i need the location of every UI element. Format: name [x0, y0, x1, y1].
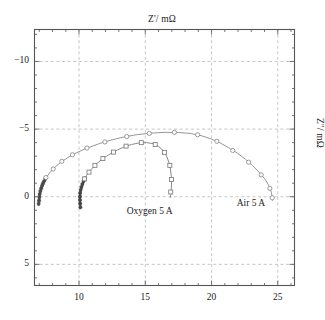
x-tick-label: 25: [265, 292, 291, 302]
data-point-marker: [60, 159, 64, 163]
data-point-marker: [101, 157, 105, 161]
data-point-marker: [169, 190, 173, 194]
data-point-marker: [196, 133, 200, 137]
data-point-marker: [247, 160, 251, 164]
data-point-marker: [85, 146, 89, 150]
data-point-marker: [103, 140, 107, 144]
axis-frame: [34, 29, 295, 286]
data-point-marker: [93, 163, 97, 167]
y-tick-label: 5: [3, 258, 29, 268]
x-tick-label: 15: [132, 292, 158, 302]
data-point-marker: [70, 153, 74, 157]
data-point-marker: [83, 177, 87, 181]
data-point-marker: [125, 134, 129, 138]
data-point-marker: [124, 144, 128, 148]
x-tick-label: 20: [199, 292, 225, 302]
y-tick-label: 0: [3, 191, 29, 201]
data-point-marker: [170, 177, 174, 181]
data-point-marker: [268, 186, 272, 190]
data-point-marker: [51, 167, 55, 171]
series-oxygen: [78, 141, 174, 210]
series-label-air: Air 5 A: [237, 198, 266, 208]
series-air: [37, 130, 275, 206]
y-tick-label: −10: [3, 55, 29, 65]
data-point-marker: [215, 139, 219, 143]
data-point-marker: [147, 131, 151, 135]
series-line: [80, 143, 172, 208]
x-tick-label: 10: [66, 292, 92, 302]
y-tick-label: −5: [3, 123, 29, 133]
data-point-marker: [270, 196, 274, 200]
plot-border: [35, 30, 295, 286]
data-point-marker: [168, 163, 172, 167]
data-point-marker: [172, 130, 176, 134]
data-point-marker: [153, 143, 157, 147]
data-point-marker: [231, 148, 235, 152]
data-point-marker: [163, 150, 167, 154]
gridlines: [34, 29, 295, 286]
data-point-marker: [259, 173, 263, 177]
data-point-marker: [111, 150, 115, 154]
data-point-marker: [44, 175, 48, 179]
data-point-marker: [139, 141, 143, 145]
series-label-oxygen: Oxygen 5 A: [127, 206, 173, 216]
data-point-marker: [87, 170, 91, 174]
